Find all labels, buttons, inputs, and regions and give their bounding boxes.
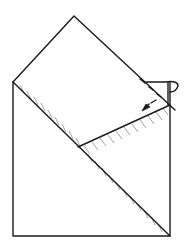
flap-crease-line [78,105,170,147]
fold-arrow-icon [142,100,156,111]
flap-hatching [84,108,168,154]
diagram-drawing [0,0,187,247]
top-flap-edge [13,16,175,110]
origami-diagram [0,0,187,247]
